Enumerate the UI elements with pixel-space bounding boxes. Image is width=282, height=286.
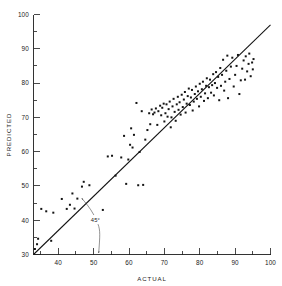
data-point: [199, 83, 201, 85]
data-point: [179, 101, 181, 103]
data-point: [222, 59, 224, 61]
data-point: [245, 55, 247, 57]
data-point: [166, 103, 168, 105]
data-point: [246, 70, 248, 72]
data-point: [37, 238, 39, 240]
axis-frame: [34, 15, 271, 255]
reference-line-45deg: [34, 25, 271, 255]
data-point: [40, 208, 42, 210]
data-point: [123, 135, 125, 137]
data-point: [125, 183, 127, 185]
data-point: [36, 243, 38, 245]
data-point: [34, 248, 36, 250]
data-point: [160, 114, 162, 116]
y-tick-label: 100: [18, 11, 29, 18]
data-point: [205, 85, 207, 87]
data-point: [161, 107, 163, 109]
data-point: [209, 79, 211, 81]
data-point: [231, 57, 233, 59]
data-point: [228, 78, 230, 80]
data-point: [61, 198, 63, 200]
data-point: [189, 104, 191, 106]
data-point: [152, 113, 154, 115]
data-point: [251, 62, 253, 64]
data-point: [69, 204, 71, 206]
data-point: [210, 92, 212, 94]
data-point: [184, 91, 186, 93]
data-point: [133, 134, 135, 136]
data-point: [241, 68, 243, 70]
data-point: [248, 63, 250, 65]
data-point: [237, 54, 239, 56]
data-point: [243, 59, 245, 61]
data-point: [177, 96, 179, 98]
data-point: [252, 68, 254, 70]
data-point: [164, 112, 166, 114]
data-point: [218, 99, 220, 101]
data-point: [202, 81, 204, 83]
data-point: [215, 71, 217, 73]
data-point: [253, 58, 255, 60]
data-point: [132, 147, 134, 149]
data-point: [178, 109, 180, 111]
data-point: [192, 110, 194, 112]
data-point: [226, 55, 228, 57]
data-point: [111, 155, 113, 157]
x-tick-label: 60: [125, 259, 133, 266]
data-point: [153, 112, 155, 114]
x-tick-label: 90: [231, 259, 239, 266]
data-point: [151, 108, 153, 110]
data-point: [180, 114, 182, 116]
data-point: [212, 73, 214, 75]
data-point: [45, 210, 47, 212]
data-point: [141, 110, 143, 112]
data-point: [194, 93, 196, 95]
data-point: [213, 94, 215, 96]
data-point: [170, 116, 172, 118]
data-point: [173, 98, 175, 100]
data-point: [74, 208, 76, 210]
data-point: [156, 124, 158, 126]
data-point: [204, 92, 206, 94]
data-point: [201, 88, 203, 90]
data-point: [176, 103, 178, 105]
data-point: [214, 82, 216, 84]
data-point: [182, 106, 184, 108]
data-point: [169, 101, 171, 103]
data-point: [130, 127, 132, 129]
x-axis-title: ACTUAL: [137, 275, 167, 282]
data-point: [187, 95, 189, 97]
data-point: [127, 159, 129, 161]
data-point: [149, 123, 151, 125]
data-point: [148, 112, 150, 114]
data-point: [66, 208, 68, 210]
data-point: [203, 100, 205, 102]
data-point: [81, 186, 83, 188]
data-point: [219, 67, 221, 69]
x-tick-label: 40: [55, 259, 63, 266]
data-point: [115, 175, 117, 177]
data-point: [217, 76, 219, 78]
data-point: [88, 184, 90, 186]
data-point: [83, 181, 85, 183]
y-tick-label: 40: [22, 217, 30, 224]
data-point: [135, 102, 137, 104]
data-point: [248, 53, 250, 55]
data-point: [198, 105, 200, 107]
data-point: [167, 116, 169, 118]
data-point: [233, 86, 235, 88]
data-point: [71, 192, 73, 194]
data-point: [137, 184, 139, 186]
data-point: [220, 85, 222, 87]
data-point: [159, 105, 161, 107]
annotation-leader-to-axis: [98, 224, 100, 253]
y-tick-label: 70: [22, 114, 30, 121]
x-tick-label: 80: [196, 259, 204, 266]
data-point: [208, 86, 210, 88]
data-point: [186, 103, 188, 105]
y-tick-label: 80: [22, 79, 30, 86]
data-point: [216, 87, 218, 89]
data-point: [142, 184, 144, 186]
data-point: [224, 81, 226, 83]
data-point: [129, 144, 131, 146]
